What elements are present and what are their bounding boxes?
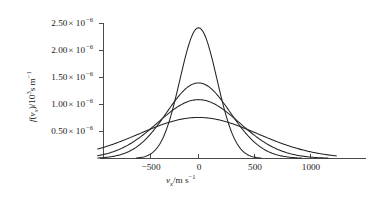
x-axis-title-units: /m s — [173, 175, 189, 185]
y-axis-title-paren-open: ( — [27, 116, 37, 119]
y-tick-exp-0: −6 — [86, 124, 93, 131]
y-tick-label-1.50: 1.50× 10−6 — [5, 73, 93, 82]
x-tick-label-0: 0 — [179, 163, 219, 172]
y-tick-times-1: × 10 — [67, 99, 86, 109]
y-tick-times-0: × 10 — [67, 126, 86, 136]
y-axis-title-f: f — [27, 119, 37, 122]
y-axis-title-v-sub: x — [32, 109, 39, 112]
curve-curve-4-broadest — [98, 117, 337, 155]
x-tick-label-1000: 1000 — [291, 163, 331, 172]
y-axis-title-exp: 3 — [25, 91, 32, 94]
y-axis-title-paren-close: ) — [27, 106, 37, 109]
x-tick-label-500: 500 — [235, 163, 275, 172]
y-tick-exp-3: −6 — [86, 43, 93, 50]
y-axis-title-units-exp: −1 — [25, 71, 32, 78]
y-tick-label-1.00: 1.00× 10−6 — [5, 100, 93, 109]
y-tick-exp-2: −6 — [86, 70, 93, 77]
y-tick-label-0.50: 0.50× 10−6 — [5, 127, 93, 136]
y-tick-times-2: × 10 — [67, 72, 86, 82]
y-tick-label-2.00: 2.00× 10−6 — [5, 46, 93, 55]
y-axis-title-divider: /10 — [27, 95, 37, 107]
curve-curve-1-narrowest — [136, 28, 261, 158]
y-tick-times-3: × 10 — [67, 45, 86, 55]
y-tick-times-4: × 10 — [67, 18, 86, 28]
y-axis-title-v: v — [27, 112, 37, 116]
y-axis-title-units: s m — [27, 78, 37, 91]
y-tick-exp-1: −6 — [86, 97, 93, 104]
x-axis-title-units-exp: −1 — [189, 173, 196, 180]
x-axis-title: vx/m s−1 — [166, 176, 196, 185]
x-tick-label--500: −500 — [131, 163, 171, 172]
velocity-distribution-figure: 2.50× 10−6 2.00× 10−6 1.50× 10−6 1.00× 1… — [0, 0, 378, 204]
y-axis-title: f(vx)/103s m−1 — [28, 71, 37, 122]
distribution-curves — [98, 28, 337, 158]
curve-curve-2 — [98, 83, 302, 158]
y-tick-label-2.50: 2.50× 10−6 — [5, 19, 93, 28]
y-tick-exp-4: −6 — [86, 16, 93, 23]
